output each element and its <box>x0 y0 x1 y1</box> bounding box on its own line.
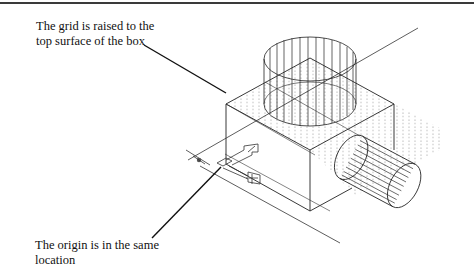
origin-marker <box>193 156 205 164</box>
grid-leader <box>144 45 226 93</box>
origin-annotation: The origin is in the same location <box>35 238 159 268</box>
ucs-icon <box>217 144 260 184</box>
grid-plane <box>226 58 440 196</box>
grid-annotation: The grid is raised to the top surface of… <box>36 19 154 49</box>
origin-leader <box>152 167 221 238</box>
leader-lines <box>144 45 226 238</box>
grid-annotation-line-1: The grid is raised to the <box>36 19 154 34</box>
grid-annotation-line-2: top surface of the box <box>36 34 154 49</box>
origin-annotation-line-1: The origin is in the same <box>35 238 159 253</box>
origin-annotation-line-2: location <box>35 253 159 268</box>
